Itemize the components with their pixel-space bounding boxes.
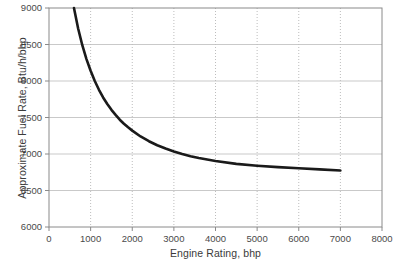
data-series-group [74,8,340,170]
svg-text:6000: 6000 [288,233,309,244]
svg-text:4000: 4000 [205,233,226,244]
y-axis-title: Approximate Fuel Rate, Btu/h/bhp [14,4,30,232]
svg-text:1000: 1000 [80,233,101,244]
svg-text:7000: 7000 [330,233,351,244]
svg-text:8000: 8000 [371,233,392,244]
x-axis-title: Engine Rating, bhp [49,246,382,260]
svg-text:0: 0 [46,233,51,244]
x-axis-ticks: 010002000300040005000600070008000 [46,227,392,244]
svg-text:2000: 2000 [122,233,143,244]
horizontal-gridlines [49,45,382,191]
fuel-rate-chart: 6000650070007500800085009000 01000200030… [0,0,417,265]
svg-text:3000: 3000 [163,233,184,244]
chart-plot-svg: 6000650070007500800085009000 01000200030… [0,0,417,265]
svg-text:5000: 5000 [247,233,268,244]
